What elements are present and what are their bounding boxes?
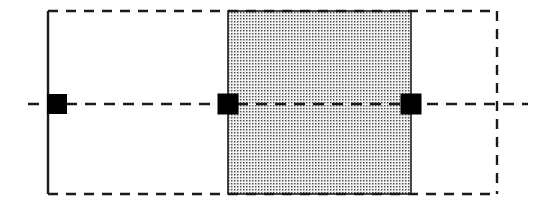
hatched-block (228, 11, 411, 194)
hatched-block-group (228, 11, 411, 194)
marker-right (401, 94, 422, 115)
technical-drawing-canvas (0, 0, 546, 212)
marker-middle (218, 94, 239, 115)
drawing-svg (0, 0, 546, 212)
marker-left (47, 94, 67, 114)
